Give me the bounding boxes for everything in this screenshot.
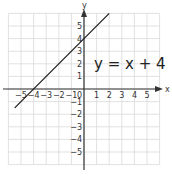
y-axis-label: y bbox=[82, 1, 87, 10]
x-tick-label: −3 bbox=[40, 91, 52, 100]
x-tick-label: −5 bbox=[15, 91, 27, 100]
x-tick-label: 3 bbox=[119, 91, 124, 100]
y-tick-label: 2 bbox=[77, 60, 82, 69]
y-tick-label: 5 bbox=[77, 22, 82, 31]
y-tick-label: 3 bbox=[77, 47, 82, 56]
y-tick-label: −1 bbox=[70, 98, 82, 107]
y-tick-label: 1 bbox=[77, 72, 82, 81]
x-axis-label: x bbox=[165, 85, 170, 94]
x-tick-label: 5 bbox=[145, 91, 150, 100]
equation-label: y = x + 4 bbox=[94, 55, 166, 73]
y-tick-label: −5 bbox=[70, 148, 82, 157]
coordinate-plane: x y −5−4−3−2−1012345 54321−1−2−3−4−5 y =… bbox=[0, 0, 172, 177]
y-tick-label: −4 bbox=[70, 135, 82, 144]
x-tick-label: 4 bbox=[132, 91, 137, 100]
x-axis-arrow-icon bbox=[155, 86, 163, 92]
x-tick-label: 2 bbox=[107, 91, 112, 100]
x-tick-label: −2 bbox=[53, 91, 65, 100]
x-tick-label: 1 bbox=[94, 91, 99, 100]
y-tick-label: −2 bbox=[70, 110, 82, 119]
y-tick-label: −3 bbox=[70, 123, 82, 132]
x-tick-labels: −5−4−3−2−1012345 bbox=[15, 91, 149, 100]
